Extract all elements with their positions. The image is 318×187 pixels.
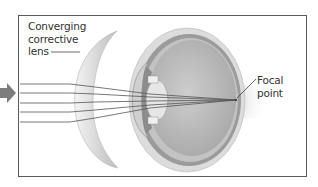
ciliary-top [148, 76, 158, 83]
eye-lens [146, 80, 168, 120]
lens-label: Converging corrective lens [28, 20, 86, 58]
lens-label-line-1: Converging [28, 20, 86, 33]
lens-label-line-3: lens [28, 45, 86, 58]
focal-label-line-2: point [257, 87, 283, 100]
lens-label-line-2: corrective [28, 33, 86, 46]
light-arrow-icon [0, 83, 16, 103]
focal-point-label: Focal point [257, 74, 283, 99]
focal-label-line-1: Focal [257, 74, 283, 87]
eye-diagram: Converging corrective lens Focal point [0, 0, 318, 187]
ciliary-bottom [148, 117, 158, 124]
focal-point-marker [235, 99, 237, 101]
